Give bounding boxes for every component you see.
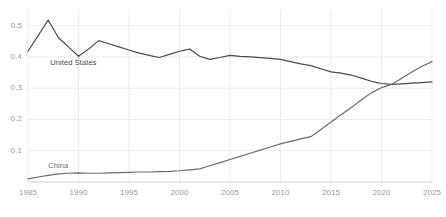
- x-tick-label: 2010: [267, 188, 295, 197]
- x-tick-label: 2000: [166, 188, 194, 197]
- series-label-united-states: United States: [50, 58, 96, 67]
- x-tick-label: 2015: [317, 188, 345, 197]
- gridlines: [28, 10, 432, 182]
- x-tick-label: 1990: [65, 188, 93, 197]
- y-tick-label: 0.1: [0, 146, 22, 155]
- y-tick-label: 0.5: [0, 21, 22, 30]
- series-label-china: China: [48, 161, 68, 170]
- y-tick-label: 0.2: [0, 114, 22, 123]
- y-tick-label: 0.4: [0, 52, 22, 61]
- x-tick-label: 2005: [216, 188, 244, 197]
- x-tick-label: 2020: [368, 188, 396, 197]
- x-tick-label: 1995: [115, 188, 143, 197]
- x-tick-label: 2025: [418, 188, 446, 197]
- x-tick-label: 1985: [14, 188, 42, 197]
- y-tick-label: 0.3: [0, 83, 22, 92]
